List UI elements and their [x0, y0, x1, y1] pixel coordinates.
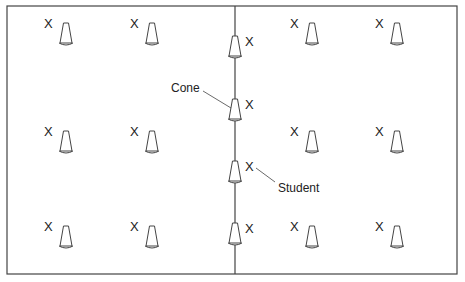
cones-group: [59, 23, 404, 248]
cone-icon: [145, 226, 159, 248]
cone-icon: [59, 226, 73, 248]
student-marker: X: [44, 17, 53, 30]
cone-icon: [390, 23, 404, 45]
cone-icon: [228, 161, 242, 183]
student-marker: X: [375, 125, 384, 138]
student-marker: X: [245, 222, 254, 235]
student-marker: X: [130, 125, 139, 138]
cone-icon: [305, 23, 319, 45]
cone-icon: [305, 131, 319, 153]
student-marker: X: [290, 220, 299, 233]
student-marker: X: [290, 125, 299, 138]
student-marker: X: [44, 125, 53, 138]
cone-icon: [228, 99, 242, 121]
cone-icon: [305, 226, 319, 248]
cone-label: Cone: [171, 82, 200, 94]
cone-icon: [145, 131, 159, 153]
cone-icon: [228, 223, 242, 245]
cone-icon: [59, 131, 73, 153]
student-marker: X: [130, 220, 139, 233]
student-marker: X: [245, 98, 254, 111]
student-marker: X: [245, 35, 254, 48]
cone-icon: [228, 36, 242, 58]
student-marker: X: [44, 220, 53, 233]
student-leader-line: [256, 168, 275, 182]
student-marker: X: [375, 17, 384, 30]
cone-icon: [145, 23, 159, 45]
cone-leader-line: [203, 91, 231, 108]
cone-icon: [59, 23, 73, 45]
cone-icon: [390, 226, 404, 248]
student-marker: X: [290, 17, 299, 30]
student-marker: X: [375, 220, 384, 233]
cone-icon: [390, 131, 404, 153]
student-label: Student: [278, 182, 319, 194]
student-marker: X: [245, 160, 254, 173]
student-marker: X: [130, 17, 139, 30]
field-diagram: [0, 0, 465, 282]
